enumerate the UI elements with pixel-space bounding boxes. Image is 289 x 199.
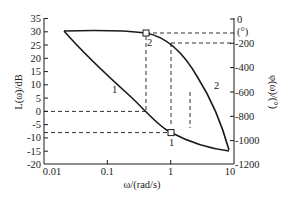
left-y-axis-label: L(ω)/dB bbox=[13, 74, 25, 110]
svg-text:(°): (°) bbox=[237, 26, 249, 38]
svg-text:0.01: 0.01 bbox=[43, 166, 61, 177]
svg-text:15: 15 bbox=[31, 66, 42, 77]
svg-text:0: 0 bbox=[36, 106, 41, 117]
marker-2 bbox=[143, 30, 149, 36]
svg-text:-5: -5 bbox=[32, 119, 41, 130]
svg-text:-1000: -1000 bbox=[235, 135, 260, 146]
curve-2-phase bbox=[64, 31, 229, 150]
svg-text:10: 10 bbox=[31, 79, 42, 90]
right-y-tick-labels: 0 (°) -200 -400 -600 -800 -1000 -1200 bbox=[235, 14, 260, 171]
left-y-tick-labels: 35 30 25 20 15 10 5 0 -5 -10 -15 -20 bbox=[27, 13, 41, 170]
svg-text:10: 10 bbox=[225, 166, 236, 177]
marker-1-label: 1 bbox=[169, 137, 174, 148]
right-y-axis-label: φ(ω)/(°) bbox=[267, 75, 279, 110]
svg-text:30: 30 bbox=[31, 26, 42, 37]
curve-1-label: 1 bbox=[112, 84, 117, 95]
svg-text:-15: -15 bbox=[27, 146, 41, 157]
svg-text:0: 0 bbox=[237, 14, 242, 25]
svg-text:5: 5 bbox=[36, 93, 41, 104]
svg-text:-800: -800 bbox=[235, 111, 254, 122]
x-ticks bbox=[107, 160, 170, 164]
svg-text:20: 20 bbox=[31, 53, 42, 64]
right-y-ticks bbox=[230, 19, 234, 141]
svg-text:0.1: 0.1 bbox=[101, 166, 114, 177]
x-tick-labels: 0.01 0.1 1 10 bbox=[43, 166, 235, 177]
svg-text:-600: -600 bbox=[235, 87, 254, 98]
svg-text:-400: -400 bbox=[235, 62, 254, 73]
svg-text:35: 35 bbox=[31, 13, 42, 24]
curve-2-label: 2 bbox=[214, 80, 219, 91]
left-y-ticks bbox=[44, 19, 48, 152]
marker-1 bbox=[168, 130, 174, 136]
svg-text:-1200: -1200 bbox=[235, 159, 260, 170]
svg-text:25: 25 bbox=[31, 40, 42, 51]
svg-text:-10: -10 bbox=[27, 132, 41, 143]
svg-text:1: 1 bbox=[168, 166, 173, 177]
svg-text:-200: -200 bbox=[235, 38, 254, 49]
bode-chart: 35 30 25 20 15 10 5 0 -5 -10 -15 -20 0 (… bbox=[0, 0, 289, 199]
x-axis-label: ω/(rad/s) bbox=[123, 179, 161, 191]
svg-text:-20: -20 bbox=[27, 159, 41, 170]
marker-2-label: 2 bbox=[147, 37, 152, 48]
guide-lines bbox=[44, 33, 234, 133]
